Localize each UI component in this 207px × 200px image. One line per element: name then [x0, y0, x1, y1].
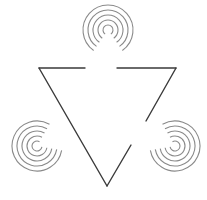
- concentric-arc: [98, 20, 118, 38]
- illusory-triangle-diagram: [0, 0, 207, 200]
- arc-group-top: [83, 5, 133, 50]
- concentric-arc: [170, 141, 180, 151]
- concentric-arc: [165, 136, 185, 156]
- concentric-arc: [155, 126, 195, 166]
- concentric-arc: [27, 136, 47, 156]
- concentric-arc: [17, 126, 57, 166]
- arc-group-right: [150, 121, 200, 171]
- triangle-outline-segments: [39, 68, 176, 186]
- concentric-arc: [150, 121, 200, 171]
- concentric-arc: [32, 141, 42, 151]
- concentric-arc: [103, 25, 113, 34]
- diagram-canvas: [0, 0, 207, 200]
- triangle-segment: [107, 145, 131, 186]
- concentric-arc: [93, 15, 123, 42]
- concentric-arc: [83, 5, 133, 50]
- concentric-arc-groups: [12, 5, 200, 171]
- triangle-segment: [146, 68, 176, 121]
- arc-group-left: [12, 121, 62, 171]
- concentric-arc: [12, 121, 62, 171]
